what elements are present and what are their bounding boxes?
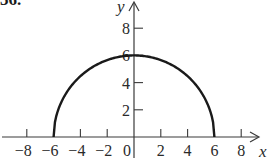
- x-ticks: −8−6−4−202468: [15, 129, 245, 159]
- x-tick-label: −4: [68, 142, 85, 159]
- x-axis-label: x: [258, 142, 267, 160]
- x-tick-label: 6: [210, 142, 218, 159]
- semicircle-graph: 36. −8−6−4−202468 2468 x y: [0, 0, 269, 160]
- x-tick-label: −6: [42, 142, 59, 159]
- y-ticks: 2468: [122, 20, 143, 119]
- y-tick-label: 4: [122, 75, 130, 92]
- y-tick-label: 8: [122, 20, 130, 37]
- y-tick-label: 2: [122, 102, 130, 119]
- x-tick-label: 2: [157, 142, 165, 159]
- x-tick-label: −8: [15, 142, 32, 159]
- x-tick-label: 0: [123, 142, 131, 159]
- y-axis-label: y: [115, 0, 125, 16]
- x-tick-label: 4: [184, 142, 192, 159]
- x-tick-label: −2: [95, 142, 112, 159]
- plot-area: −8−6−4−202468 2468 x y: [0, 0, 269, 160]
- problem-number: 36.: [0, 0, 21, 8]
- x-tick-label: 8: [237, 142, 245, 159]
